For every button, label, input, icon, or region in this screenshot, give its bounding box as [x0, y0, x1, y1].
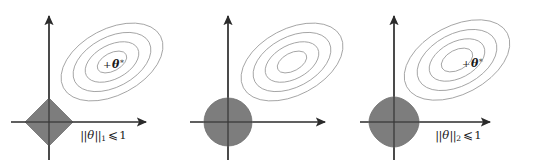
relation-symbol: ⩽: [106, 128, 119, 142]
elastic-net-ball-panel: +θ∗ (1 − α)||θ||1+α||θ||22⩽1: [358, 0, 537, 168]
l2-ball-panel: +θ∗ ||θ||2⩽1: [179, 0, 358, 168]
loss-contours: [228, 7, 356, 117]
contour-ring: [258, 33, 325, 90]
contour-ring: [391, 3, 524, 117]
plus-icon: +: [103, 59, 112, 70]
optimum-marker-l1: +θ∗: [103, 57, 125, 71]
l1-ball-panel: +θ∗ ||θ||1⩽1: [0, 0, 179, 168]
contour-ring: [274, 47, 311, 78]
contour-ring: [422, 30, 492, 90]
contour-ring: [437, 43, 476, 77]
contour-ring: [243, 20, 341, 104]
contour-ring: [228, 7, 356, 117]
contour-ring: [407, 17, 507, 103]
loss-contours: [391, 3, 524, 117]
star-symbol: ∗: [119, 57, 124, 66]
regularization-figure: +θ∗ ||θ||1⩽1 +θ∗ ||θ||2⩽1: [0, 0, 537, 168]
bound-value: 1: [119, 128, 126, 142]
l1-constraint-label: ||θ||1⩽1: [80, 128, 127, 143]
